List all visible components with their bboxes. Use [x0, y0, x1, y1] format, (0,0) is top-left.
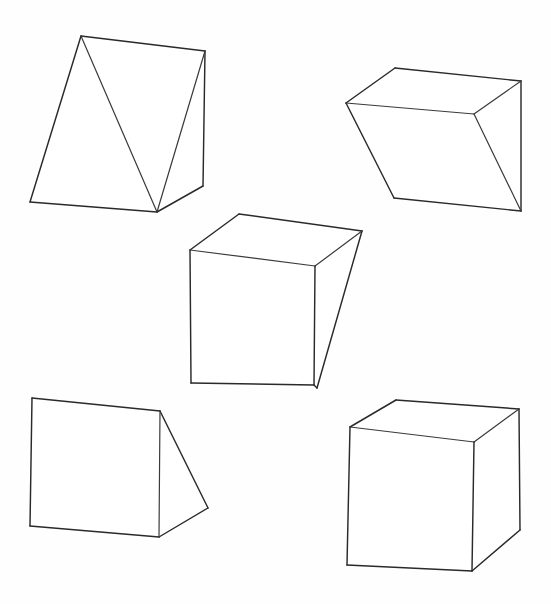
solid-cube-bottom-right[interactable]: [347, 400, 520, 571]
cube-center-edge-2: [190, 250, 191, 383]
cube-bottom-right-body: [347, 400, 520, 571]
solids-line-drawing: [0, 0, 551, 604]
drawing-canvas: [0, 0, 551, 604]
cube-center-edge-6: [314, 266, 315, 385]
cube-bottom-right-edge-1: [519, 409, 520, 530]
